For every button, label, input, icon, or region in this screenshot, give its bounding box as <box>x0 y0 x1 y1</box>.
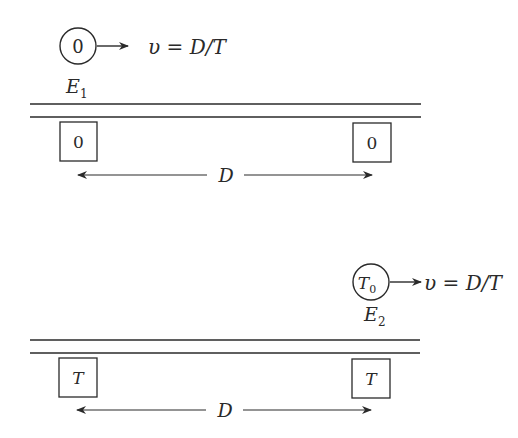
station-clock-left: T <box>59 358 97 397</box>
moving-clock-2: T0 <box>353 264 389 300</box>
scene-e2: T0 υ = D/T E2 T T D <box>30 264 503 421</box>
relativity-clock-diagram: 0 υ = D/T E1 0 0 D T0 υ = D/T E2 <box>0 0 518 438</box>
station-clock-left: 0 <box>60 122 97 161</box>
distance-label: D <box>217 164 233 186</box>
svg-text:0: 0 <box>73 132 84 152</box>
moving-clock-1: 0 <box>60 28 96 64</box>
svg-text:T: T <box>72 368 85 388</box>
svg-text:0: 0 <box>367 133 378 153</box>
moving-clock-reading: 0 <box>72 36 83 57</box>
svg-text:T: T <box>365 369 378 389</box>
station-clock-right: T <box>352 359 390 398</box>
distance-label: D <box>216 399 232 421</box>
station-clock-right: 0 <box>353 123 391 162</box>
velocity-label: υ = D/T <box>148 35 227 59</box>
moving-clock-reading: T0 <box>358 273 376 296</box>
velocity-label: υ = D/T <box>424 271 503 295</box>
scene-e1: 0 υ = D/T E1 0 0 D <box>30 28 421 186</box>
event-label: E2 <box>363 303 386 329</box>
event-label: E1 <box>65 75 88 101</box>
